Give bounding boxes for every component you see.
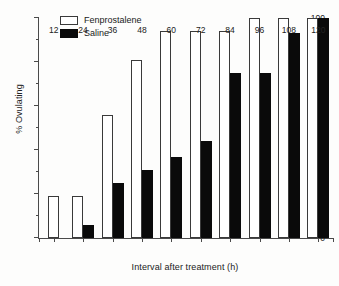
bar-group — [68, 18, 97, 238]
legend-swatch-icon — [60, 16, 78, 25]
bar-group — [157, 18, 186, 238]
x-tick — [54, 238, 55, 242]
legend-swatch-icon — [60, 29, 78, 38]
x-tick-label: 84 — [225, 25, 234, 35]
legend-label: Fenprostalene — [84, 14, 142, 27]
bar-fenprostalene-120h — [307, 18, 318, 238]
bar-chart-figure: % Ovulating 020406080100 122436486072849… — [0, 0, 339, 286]
bar-fenprostalene-108h — [278, 18, 289, 238]
bar-fenprostalene-72h — [190, 31, 201, 238]
bar-group — [186, 18, 215, 238]
x-tick — [83, 238, 84, 242]
x-tick — [142, 238, 143, 242]
bar-group — [98, 18, 127, 238]
bar-group — [127, 18, 156, 238]
x-tick — [113, 238, 114, 242]
bar-fenprostalene-84h — [219, 31, 230, 238]
bar-group — [245, 18, 274, 238]
bar-fenprostalene-36h — [102, 115, 113, 238]
plot-area: 020406080100 1224364860728496108120 — [38, 18, 333, 239]
bar-group — [39, 18, 68, 238]
legend-label: Saline — [84, 27, 109, 40]
bar-group — [274, 18, 303, 238]
x-tick-label: 72 — [196, 25, 205, 35]
legend-item: Saline — [60, 27, 142, 40]
bar-saline-24h — [83, 225, 94, 238]
x-tick — [171, 238, 172, 242]
bar-saline-60h — [171, 157, 182, 238]
x-tick — [230, 238, 231, 242]
bar-saline-84h — [230, 73, 241, 238]
bar-fenprostalene-96h — [249, 18, 260, 238]
x-tick-boundary — [39, 238, 40, 242]
x-tick-label: 60 — [167, 25, 176, 35]
bar-fenprostalene-48h — [131, 60, 142, 238]
bar-group — [304, 18, 333, 238]
bar-fenprostalene-12h — [48, 196, 59, 238]
bar-saline-48h — [142, 170, 153, 238]
x-tick-label: 12 — [49, 25, 58, 35]
bar-saline-96h — [260, 73, 271, 238]
bar-saline-120h — [318, 18, 329, 238]
bar-saline-108h — [289, 33, 300, 238]
bar-fenprostalene-24h — [72, 196, 83, 238]
x-tick-boundary — [333, 238, 334, 242]
bar-saline-36h — [113, 183, 124, 238]
bar-group — [215, 18, 244, 238]
x-tick — [260, 238, 261, 242]
bar-groups — [39, 18, 333, 238]
x-tick — [201, 238, 202, 242]
bar-fenprostalene-60h — [160, 31, 171, 238]
x-tick-label: 120 — [311, 25, 325, 35]
x-axis-title: Interval after treatment (h) — [38, 262, 332, 272]
y-axis-title: % Ovulating — [14, 64, 24, 154]
bar-saline-72h — [201, 141, 212, 238]
legend-item: Fenprostalene — [60, 14, 142, 27]
x-tick — [289, 238, 290, 242]
x-tick-label: 108 — [282, 25, 296, 35]
x-tick — [318, 238, 319, 242]
x-tick-label: 96 — [255, 25, 264, 35]
chart-legend: FenprostaleneSaline — [60, 14, 142, 40]
